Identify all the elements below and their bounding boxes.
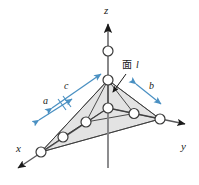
node-x-far	[36, 147, 46, 157]
x-axis-label: x	[15, 142, 21, 154]
dim-b-label: b	[149, 80, 154, 91]
z-axis-label: z	[103, 4, 109, 16]
node-y-mid	[129, 109, 139, 119]
plane-label-kanji: 面	[122, 59, 132, 70]
node-origin	[103, 103, 113, 113]
dim-a-label: a	[43, 95, 48, 106]
lattice-plane-figure: z y x 面 l c a b	[0, 0, 199, 185]
node-x-mid2	[58, 132, 68, 142]
node-z-apex	[103, 75, 113, 85]
node-z-upper	[103, 46, 113, 56]
figure-container: z y x 面 l c a b	[0, 0, 199, 185]
plane-label-letter: l	[136, 59, 139, 70]
node-x-mid1	[81, 117, 91, 127]
node-y-far	[155, 114, 165, 124]
y-axis-label: y	[180, 140, 186, 152]
dim-c-label: c	[64, 80, 69, 91]
